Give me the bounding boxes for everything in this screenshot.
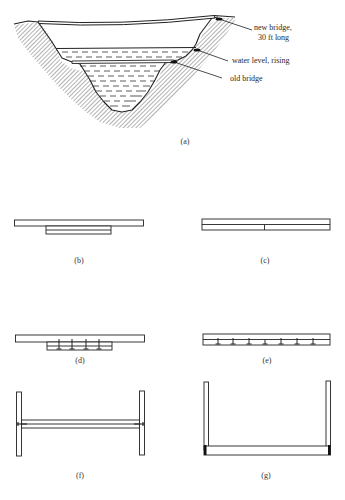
panel-c-diagram <box>202 219 330 230</box>
panel-label-d: (d) <box>75 356 84 365</box>
callout-old-bridge: old bridge <box>230 74 263 84</box>
panel-label-b: (b) <box>74 256 83 265</box>
panel-label-c: (c) <box>261 256 270 265</box>
right-post <box>140 391 145 455</box>
new-bridge <box>38 16 215 26</box>
callout-new-bridge-line1: new bridge, <box>254 23 292 33</box>
right-post <box>326 381 331 450</box>
callout-new-bridge-line2: 30 ft long <box>254 33 292 43</box>
callout-water-level: water level, rising <box>232 56 290 66</box>
bridge-diagram <box>0 0 345 500</box>
panel-a-ravine <box>14 16 252 129</box>
panel-label-g: (g) <box>261 471 270 480</box>
left-post <box>204 382 209 450</box>
old-bridge <box>72 60 174 64</box>
new-bridge-plank <box>16 335 145 342</box>
panel-f-diagram <box>17 391 145 456</box>
panel-label-e: (e) <box>263 356 272 365</box>
panel-label-f: (f) <box>76 471 84 480</box>
callout-new-bridge: new bridge, 30 ft long <box>254 23 292 42</box>
panel-g-diagram <box>204 381 331 455</box>
panel-label-a: (a) <box>181 137 190 146</box>
panel-d-diagram <box>16 335 145 350</box>
panel-b-diagram <box>15 220 144 234</box>
panel-e-diagram <box>203 334 330 345</box>
new-bridge-plank <box>15 220 144 226</box>
base-beam <box>204 446 331 455</box>
